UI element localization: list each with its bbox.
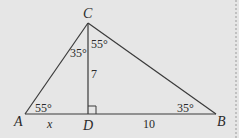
angle-label-A: 55° [35, 101, 52, 115]
angle-label-DCB: 55° [91, 37, 108, 51]
length-label-DB: 10 [143, 117, 155, 131]
length-label-CD: 7 [91, 67, 97, 81]
length-label-AD: x [46, 117, 53, 131]
vertex-label-A: A [13, 114, 23, 129]
angle-label-ACD: 35° [70, 46, 87, 60]
vertex-label-C: C [83, 6, 93, 21]
vertex-label-B: B [217, 114, 226, 129]
right-triangle-diagram: C A D B 55° 35° 35° 55° 7 x 10 [0, 0, 239, 138]
angle-label-B: 35° [177, 101, 194, 115]
background [0, 0, 239, 138]
vertex-label-D: D [82, 118, 93, 133]
